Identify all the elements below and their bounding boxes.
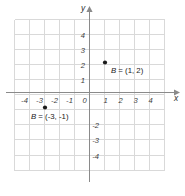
point-b-upper[interactable] xyxy=(103,60,107,64)
point-b-lower-eq: = (-3, -1) xyxy=(36,112,69,121)
point-b-upper-label: B = (1, 2) xyxy=(111,66,144,75)
x-tick-neg2: -2 xyxy=(51,96,59,105)
y-tick-pos4: 4 xyxy=(81,31,85,40)
y-axis-arrow-icon xyxy=(86,6,92,12)
point-b-upper-eq: = (1, 2) xyxy=(116,66,143,75)
x-tick-pos4: 4 xyxy=(148,96,152,105)
y-tick-pos2: 2 xyxy=(80,61,86,70)
y-tick-neg4: -4 xyxy=(92,152,99,161)
point-b-lower-label: B = (-3, -1) xyxy=(31,112,69,121)
x-tick-neg3: -3 xyxy=(36,96,44,105)
y-tick-pos1: 1 xyxy=(81,76,85,85)
x-tick-labels: -4 -3 -2 -1 0 1 2 3 4 xyxy=(21,96,153,105)
origin-label: 0 xyxy=(82,96,87,105)
y-tick-neg3: -3 xyxy=(92,136,100,145)
point-b-lower[interactable] xyxy=(43,105,47,109)
x-tick-neg1: -1 xyxy=(66,96,73,105)
coordinate-plane-svg: -4 -3 -2 -1 0 1 2 3 4 4 3 2 1 -2 -3 -4 x… xyxy=(0,0,185,196)
x-tick-pos1: 1 xyxy=(103,96,107,105)
coordinate-plane-graph: -4 -3 -2 -1 0 1 2 3 4 4 3 2 1 -2 -3 -4 x… xyxy=(0,0,185,196)
data-points: B = (1, 2) B = (-3, -1) xyxy=(31,60,144,121)
y-tick-neg2: -2 xyxy=(92,121,100,130)
x-tick-neg4: -4 xyxy=(21,96,28,105)
y-axis-label: y xyxy=(80,3,86,13)
x-tick-pos3: 3 xyxy=(133,96,138,105)
x-tick-pos2: 2 xyxy=(117,96,123,105)
x-axis-label: x xyxy=(173,93,179,103)
